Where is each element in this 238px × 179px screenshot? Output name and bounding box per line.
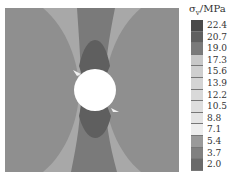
colorbar-tick-label: 12.2 — [207, 91, 227, 100]
colorbar-swatch — [191, 90, 203, 102]
contour-plot — [5, 8, 179, 172]
colorbar-swatch — [191, 20, 203, 32]
colorbar-swatch — [191, 78, 203, 90]
colorbar-tick-label: 10.5 — [207, 102, 227, 111]
colorbar-tick-label: 22.4 — [207, 21, 227, 30]
colorbar-title: σv/MPa — [189, 3, 226, 17]
colorbar-swatch — [191, 32, 203, 44]
colorbar-tick-label: 19.0 — [207, 44, 227, 53]
colorbar-tick-label: 20.7 — [207, 33, 227, 42]
colorbar-swatch — [191, 113, 203, 125]
colorbar-tick-label: 5.4 — [207, 137, 221, 146]
colorbar-swatch — [191, 66, 203, 78]
colorbar-swatch — [191, 124, 203, 136]
colorbar-swatch — [191, 101, 203, 113]
colorbar-tick-label: 2.0 — [207, 160, 221, 169]
colorbar-tick-label: 3.7 — [207, 149, 221, 158]
colorbar-swatch — [191, 159, 203, 171]
colorbar-tick-label: 8.8 — [207, 114, 221, 123]
colorbar-tick-label: 17.3 — [207, 56, 227, 65]
colorbar-swatch — [191, 148, 203, 160]
colorbar-tick-label: 13.9 — [207, 79, 227, 88]
colorbar-swatch — [191, 136, 203, 148]
colorbar-swatch — [191, 55, 203, 67]
colorbar-tick-label: 15.6 — [207, 67, 227, 76]
colorbar-legend: σv/MPa 22.420.719.017.315.613.912.210.58… — [187, 0, 238, 179]
colorbar-tick-label: 7.1 — [207, 125, 221, 134]
colorbar-swatch — [191, 43, 203, 55]
hole — [74, 69, 116, 111]
